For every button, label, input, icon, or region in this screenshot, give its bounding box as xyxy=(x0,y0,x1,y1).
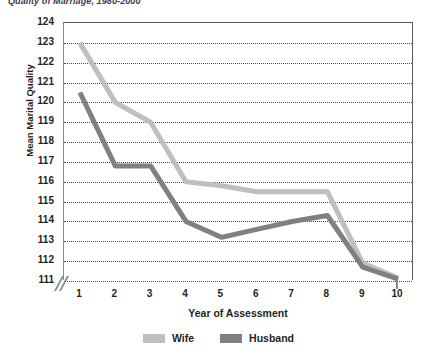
y-tick-label: 119 xyxy=(18,116,54,126)
y-tick-label: 117 xyxy=(18,156,54,166)
y-tick-label: 111 xyxy=(18,275,54,285)
chart-figure: Quality of Marriage, 1980-2000 Mean Mari… xyxy=(0,0,437,355)
legend-item-wife[interactable]: Wife xyxy=(143,333,194,344)
legend-label-wife: Wife xyxy=(172,333,194,344)
x-tick-mark xyxy=(396,280,398,289)
y-tick-label: 118 xyxy=(18,136,54,146)
x-tick-label: 4 xyxy=(173,288,197,299)
legend-swatch-husband xyxy=(220,334,242,343)
x-tick-label: 1 xyxy=(67,288,91,299)
y-tick-label: 114 xyxy=(18,215,54,225)
y-tick-label: 121 xyxy=(18,77,54,87)
x-tick-label: 9 xyxy=(350,288,374,299)
y-tick-label: 112 xyxy=(18,255,54,265)
series-line-wife xyxy=(80,43,398,278)
legend-swatch-wife xyxy=(143,334,165,343)
legend-label-husband: Husband xyxy=(249,333,294,344)
y-tick-label: 124 xyxy=(18,17,54,27)
y-tick-label: 120 xyxy=(18,96,54,106)
legend-item-husband[interactable]: Husband xyxy=(220,333,294,344)
x-tick-label: 2 xyxy=(102,288,126,299)
chart-legend: WifeHusband xyxy=(0,333,437,344)
y-tick-label: 123 xyxy=(18,37,54,47)
y-tick-label: 115 xyxy=(18,196,54,206)
y-tick-label: 122 xyxy=(18,57,54,67)
x-tick-label: 7 xyxy=(279,288,303,299)
series-lines xyxy=(64,23,414,281)
plot-area xyxy=(63,22,413,280)
x-tick-label: 5 xyxy=(208,288,232,299)
series-line-husband xyxy=(80,92,398,279)
gridline xyxy=(64,281,412,282)
figure-caption: Quality of Marriage, 1980-2000 xyxy=(8,0,268,8)
y-tick-label: 113 xyxy=(18,235,54,245)
y-tick-label: 116 xyxy=(18,176,54,186)
x-axis-title: Year of Assessment xyxy=(63,307,413,319)
x-tick-label: 10 xyxy=(385,288,409,299)
x-tick-label: 3 xyxy=(138,288,162,299)
x-tick-label: 8 xyxy=(314,288,338,299)
x-tick-label: 6 xyxy=(244,288,268,299)
